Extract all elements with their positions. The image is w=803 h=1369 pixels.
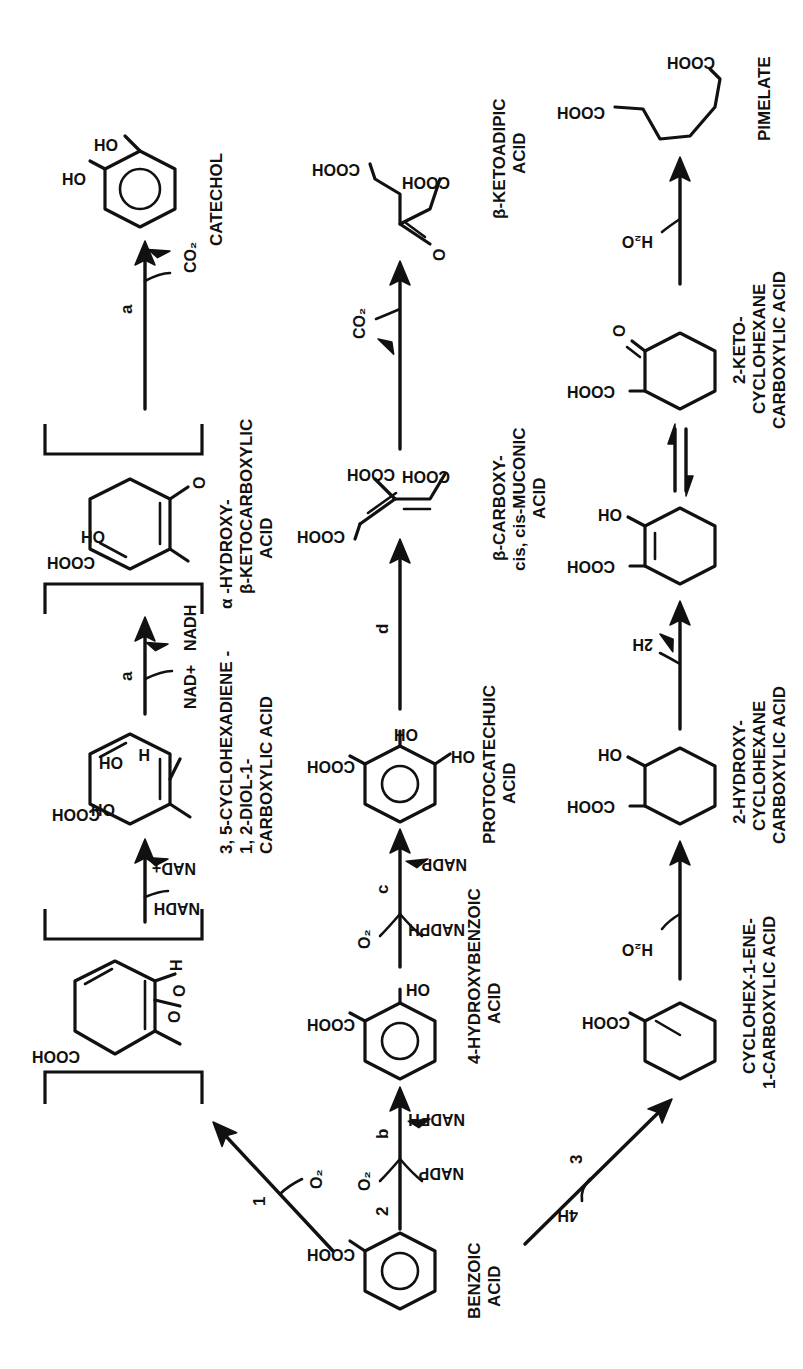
cofactor-nadplus-2: NAD+: [182, 665, 199, 709]
svg-text:CARBOXYLIC ACID: CARBOXYLIC ACID: [770, 271, 789, 429]
svg-text:OH: OH: [598, 746, 622, 763]
label-keto-cyclohexane-carboxylic-acid: 2-KETO- CYCLOHEXANE CARBOXYLIC ACID: [730, 271, 789, 429]
svg-text:O₂: O₂: [356, 1171, 373, 1191]
svg-text:1, 2-DIOL-1-: 1, 2-DIOL-1-: [237, 759, 256, 854]
svg-text:OH: OH: [451, 748, 475, 765]
compound-keto-cyclohexane-carboxylic-acid: COOH O: [567, 325, 715, 409]
svg-text:O: O: [191, 477, 208, 489]
cofactor-o2: O₂: [308, 1169, 325, 1189]
enzyme-label-a: a: [117, 671, 136, 681]
svg-text:COOH: COOH: [667, 54, 715, 71]
svg-text:COOH: COOH: [347, 466, 395, 483]
svg-text:COOH: COOH: [32, 1048, 80, 1065]
cofactor-nadh-2: NADH: [182, 605, 199, 651]
svg-text:COOH: COOH: [567, 383, 615, 400]
label-protocatechuic-acid: PROTOCATECHUIC ACID: [480, 685, 519, 844]
enzyme-label-1: 1: [250, 1197, 269, 1206]
svg-text:NADP: NADP: [418, 1165, 464, 1182]
svg-text:COOH: COOH: [307, 1016, 355, 1033]
reaction-arrow-a-2: a CO₂: [117, 241, 199, 409]
svg-text:CYCLOHEXANE: CYCLOHEXANE: [750, 284, 769, 414]
svg-text:NADPH: NADPH: [408, 1111, 465, 1128]
equilibrium-arrows: [668, 424, 693, 496]
svg-text:ACID: ACID: [530, 477, 549, 519]
label-hydroxy-cyclohexane-carboxylic-acid: 2-HYDROXY- CYCLOHEXANE CARBOXYLIC ACID: [730, 686, 789, 844]
svg-text:CYCLOHEX-1-ENE-: CYCLOHEX-1-ENE-: [740, 918, 759, 1074]
svg-text:d: d: [373, 624, 392, 634]
reaction-arrow-d: d: [373, 539, 410, 709]
svg-text:OH: OH: [99, 754, 123, 771]
svg-text:OH: OH: [406, 981, 430, 998]
reaction-arrow-ring-cleavage: H₂O: [622, 157, 690, 284]
svg-text:α -HYDROXY-: α -HYDROXY-: [217, 499, 236, 609]
svg-text:2H: 2H: [633, 636, 653, 653]
svg-text:2-KETO-: 2-KETO-: [730, 316, 749, 384]
svg-text:β-KETOCARBOXYLIC: β-KETOCARBOXYLIC: [237, 419, 256, 594]
svg-text:COOH: COOH: [402, 174, 450, 191]
compound-cyclohexene-carboxylic-acid: COOH: [582, 1003, 715, 1079]
cofactor-nadh: NADH: [154, 900, 200, 917]
svg-text:ACID: ACID: [510, 132, 529, 174]
svg-text:4H: 4H: [558, 1207, 578, 1224]
label-cyclohexene-carboxylic-acid: CYCLOHEX-1-ENE- 1-CARBOXYLIC ACID: [740, 916, 779, 1089]
svg-text:cis, cis-MUCONIC: cis, cis-MUCONIC: [510, 427, 529, 571]
svg-text:COOH: COOH: [307, 758, 355, 775]
svg-text:1-CARBOXYLIC ACID: 1-CARBOXYLIC ACID: [760, 916, 779, 1089]
reaction-arrow-a-1: a NAD+ NADH: [117, 605, 199, 714]
label-pimelate: PIMELATE: [755, 56, 774, 141]
svg-text:H: H: [138, 746, 150, 763]
label-catechol: CATECHOL: [207, 153, 226, 246]
svg-text:H₂O: H₂O: [622, 233, 653, 250]
byproduct-co2: CO₂: [182, 242, 199, 273]
svg-text:COOH: COOH: [567, 798, 615, 815]
svg-text:H₂O: H₂O: [622, 941, 653, 958]
svg-text:COOH: COOH: [297, 528, 345, 545]
svg-text:COOH: COOH: [582, 1014, 630, 1031]
svg-text:COOH: COOH: [307, 1246, 355, 1263]
svg-text:a: a: [117, 304, 136, 314]
label-diol: 3, 5-CYCLOHEXADIENE - 1, 2-DIOL-1- CARBO…: [217, 651, 276, 854]
svg-text:H: H: [168, 959, 185, 971]
compound-cyclohexadiene-diol: COOH OH OH H: [52, 734, 190, 824]
compound-hydroxy-ketoacid: COOH OH O: [47, 477, 208, 571]
svg-text:BENZOIC: BENZOIC: [465, 1243, 484, 1320]
label-ketoadipic-acid: β-KETOADIPIC ACID: [490, 98, 529, 219]
svg-text:PROTOCATECHUIC: PROTOCATECHUIC: [480, 685, 499, 844]
label-carboxy-muconic-acid: β-CARBOXY- cis, cis-MUCONIC ACID: [490, 427, 549, 571]
svg-text:O: O: [166, 1011, 183, 1023]
svg-text:3: 3: [567, 1155, 586, 1164]
svg-text:OH: OH: [394, 726, 418, 743]
compound-4-hydroxybenzoic-acid: COOH OH: [307, 981, 435, 1079]
svg-text:2: 2: [373, 1207, 392, 1216]
compound-carboxy-muconic-acid: COOH COOH COOH: [297, 466, 450, 545]
svg-text:NADPH: NADPH: [408, 921, 465, 938]
intermediate-bracket-2: [45, 424, 202, 614]
compound-catechol: OH OH: [62, 136, 175, 227]
reaction-arrow-nadh: NADH NAD+: [135, 839, 200, 922]
reaction-arrow-dehydrogenation: 2H: [633, 601, 690, 729]
svg-text:CO₂: CO₂: [351, 308, 368, 339]
svg-text:O: O: [431, 249, 448, 261]
svg-text:CARBOXYLIC ACID: CARBOXYLIC ACID: [257, 696, 276, 854]
svg-text:COOH: COOH: [47, 554, 95, 571]
reaction-arrow-hydration: H₂O: [622, 841, 690, 979]
svg-text:2-HYDROXY-: 2-HYDROXY-: [730, 720, 749, 824]
svg-text:CARBOXYLIC ACID: CARBOXYLIC ACID: [770, 686, 789, 844]
reaction-arrow-2-b: 2 b O₂ NADP NADPH: [356, 1087, 465, 1229]
svg-text:β-CARBOXY-: β-CARBOXY-: [490, 455, 509, 561]
landscape-group: 1 O₂ COOH O O H NADH NAD+ COOH OH OH: [32, 54, 789, 1319]
reaction-arrow-c: c O₂ NADPH NADP: [356, 829, 467, 967]
svg-text:O₂: O₂: [356, 929, 373, 949]
svg-text:3, 5-CYCLOHEXADIENE -: 3, 5-CYCLOHEXADIENE -: [217, 651, 236, 854]
svg-text:ACID: ACID: [485, 982, 504, 1024]
svg-text:O: O: [611, 325, 628, 337]
reaction-arrow-3: 3 4H: [525, 1092, 679, 1244]
compound-protocatechuic-acid: COOH OH OH: [307, 726, 475, 822]
svg-text:OH: OH: [91, 801, 115, 818]
svg-text:COOH: COOH: [557, 104, 605, 121]
compound-hydroxy-cyclohexane-carboxylic-acid: COOH OH: [567, 746, 715, 824]
reaction-arrow-decarboxylation: CO₂: [351, 261, 410, 449]
compound-pimelate: COOH COOH: [557, 54, 720, 139]
svg-text:b: b: [373, 1129, 392, 1139]
svg-text:OH: OH: [94, 136, 118, 153]
